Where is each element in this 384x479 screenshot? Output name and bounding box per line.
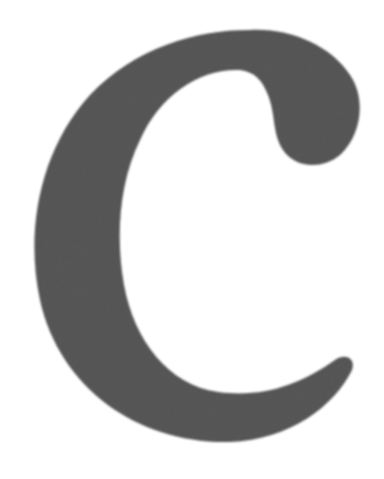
letter-c-icon xyxy=(0,0,384,479)
letter-c-graphic: C xyxy=(0,0,384,479)
